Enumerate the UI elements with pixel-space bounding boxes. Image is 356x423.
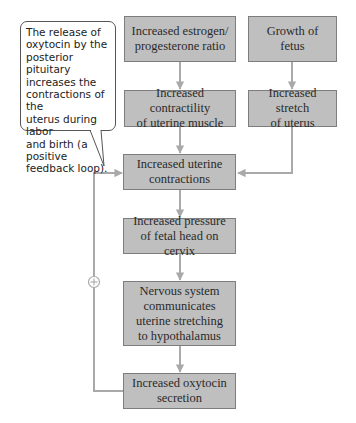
node-label: Increased stretch of uterus	[252, 86, 333, 131]
node-label: Increased estrogen/ progesterone ratio	[132, 24, 229, 54]
node-stretch: Increased stretch of uterus	[248, 90, 337, 127]
node-label: Nervous system communicates uterine stre…	[136, 284, 223, 344]
node-label: Increased oxytocin secretion	[132, 376, 227, 406]
callout-tail	[90, 130, 104, 166]
node-nervous-system: Nervous system communicates uterine stre…	[123, 281, 236, 346]
plus-circle-icon	[89, 277, 100, 288]
node-fetus-growth: Growth of fetus	[248, 16, 337, 62]
node-oxytocin: Increased oxytocin secretion	[123, 373, 236, 409]
arrow-stretch-to-contractions	[238, 127, 292, 173]
node-label: Growth of fetus	[267, 24, 319, 54]
diagram-canvas: The release of oxytocin by the posterior…	[0, 0, 356, 423]
node-pressure: Increased pressure of fetal head on cerv…	[123, 218, 236, 254]
node-label: Increased pressure of fetal head on cerv…	[127, 214, 232, 259]
node-estrogen-ratio: Increased estrogen/ progesterone ratio	[124, 16, 236, 62]
node-label: Increased contractility of uterine muscl…	[128, 86, 232, 131]
node-contractions: Increased uterine contractions	[123, 154, 236, 190]
node-contractility: Increased contractility of uterine muscl…	[124, 90, 236, 127]
node-label: Increased uterine contractions	[137, 157, 223, 187]
callout-note: The release of oxytocin by the posterior…	[20, 21, 116, 131]
